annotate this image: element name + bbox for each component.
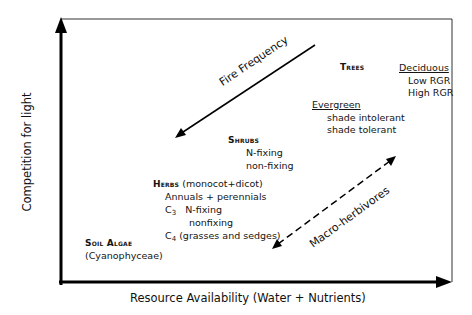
evergreen-title: Evergreen xyxy=(312,99,361,111)
shrubs-item-n-fixing: N-fixing xyxy=(246,147,283,159)
herbs-heading: Herbs (monocot+dicot) xyxy=(153,178,263,190)
c4-subscript: 4 xyxy=(172,235,176,243)
shrubs-title: Shrubs xyxy=(228,134,259,146)
y-axis-label: Competition for light xyxy=(20,93,34,212)
fire-frequency-arrowhead-icon xyxy=(175,128,186,138)
trees-title: Trees xyxy=(340,61,364,73)
c4-text: (grasses and sedges) xyxy=(179,230,280,241)
deciduous-item-low-rgr: Low RGR xyxy=(408,75,450,87)
c3-nonfixing: nonfixing xyxy=(189,217,233,229)
c3-n-fixing: N-fixing xyxy=(185,204,222,215)
herbs-subtitle: (monocot+dicot) xyxy=(182,178,262,189)
x-axis-label: Resource Availability (Water + Nutrients… xyxy=(130,291,366,305)
x-axis-arrow-icon xyxy=(436,276,452,288)
herbs-annuals-perennials: Annuals + perennials xyxy=(165,191,266,203)
soil-algae-subtitle: (Cyanophyceae) xyxy=(85,250,163,262)
deciduous-title: Deciduous xyxy=(399,62,449,74)
deciduous-item-high-rgr: High RGR xyxy=(408,87,453,99)
c3-prefix: C xyxy=(165,204,172,215)
soil-algae-title: Soil Algae xyxy=(85,237,132,249)
diagram-frame xyxy=(0,0,472,315)
herbs-c4-line: C4 (grasses and sedges) xyxy=(165,230,281,245)
herbs-title: Herbs xyxy=(153,179,179,189)
c3-subscript: 3 xyxy=(172,209,176,217)
c4-prefix: C xyxy=(165,230,172,241)
evergreen-item-shade-intolerant: shade intolerant xyxy=(327,112,405,124)
shrubs-item-non-fixing: non-fixing xyxy=(246,160,294,172)
macro-herbivores-arrowhead-upper-icon xyxy=(386,156,396,166)
evergreen-item-shade-tolerant: shade tolerant xyxy=(327,124,396,136)
